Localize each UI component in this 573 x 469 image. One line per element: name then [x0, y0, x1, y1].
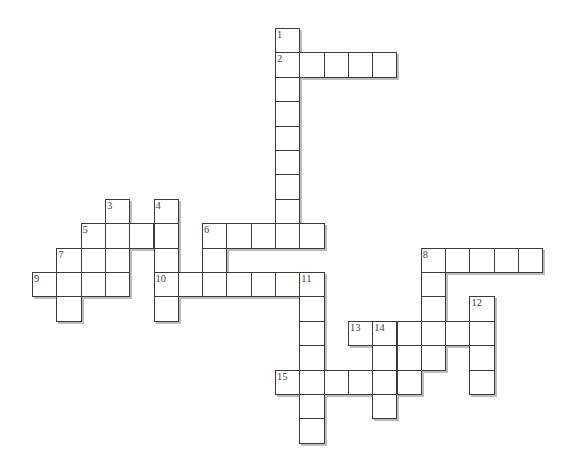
clue-number: 10	[156, 273, 167, 284]
crossword-cell[interactable]: 7	[56, 248, 81, 273]
crossword-cell[interactable]	[421, 345, 446, 370]
crossword-cell[interactable]	[299, 321, 324, 346]
clue-number: 4	[156, 200, 161, 211]
crossword-cell[interactable]	[275, 223, 300, 248]
clue-number: 13	[350, 322, 361, 333]
crossword-cell[interactable]	[372, 394, 397, 419]
crossword-cell[interactable]	[518, 248, 543, 273]
crossword-cell[interactable]	[56, 272, 81, 297]
clue-number: 2	[277, 53, 282, 64]
crossword-cell[interactable]	[275, 174, 300, 199]
crossword-cell[interactable]	[275, 150, 300, 175]
clue-number: 14	[374, 322, 385, 333]
crossword-cell[interactable]	[372, 370, 397, 395]
crossword-cell[interactable]: 10	[154, 272, 179, 297]
crossword-cell[interactable]	[421, 321, 446, 346]
crossword-cell[interactable]	[348, 370, 373, 395]
crossword-cell[interactable]	[251, 223, 276, 248]
crossword-cell[interactable]: 12	[469, 296, 494, 321]
crossword-cell[interactable]	[202, 272, 227, 297]
crossword-cell[interactable]	[129, 223, 154, 248]
crossword-cell[interactable]: 13	[348, 321, 373, 346]
crossword-cell[interactable]	[275, 272, 300, 297]
crossword-cell[interactable]	[299, 418, 324, 443]
crossword-cell[interactable]	[469, 248, 494, 273]
clue-number: 12	[471, 297, 482, 308]
crossword-cell[interactable]: 5	[81, 223, 106, 248]
crossword-cell[interactable]	[299, 52, 324, 77]
crossword-cell[interactable]	[178, 272, 203, 297]
crossword-cell[interactable]: 15	[275, 370, 300, 395]
clue-number: 11	[301, 273, 311, 284]
crossword-cell[interactable]: 4	[154, 199, 179, 224]
crossword-cell[interactable]	[275, 199, 300, 224]
crossword-cell[interactable]	[154, 248, 179, 273]
crossword-cell[interactable]	[275, 77, 300, 102]
crossword-cell[interactable]	[299, 223, 324, 248]
crossword-cell[interactable]	[154, 223, 179, 248]
crossword-cell[interactable]	[275, 126, 300, 151]
clue-number: 3	[107, 200, 112, 211]
crossword-cell[interactable]	[202, 248, 227, 273]
crossword-grid: 123456789101112131415	[0, 0, 573, 469]
crossword-cell[interactable]	[324, 370, 349, 395]
crossword-cell[interactable]	[226, 223, 251, 248]
crossword-cell[interactable]	[372, 345, 397, 370]
crossword-cell[interactable]	[445, 248, 470, 273]
crossword-cell[interactable]	[105, 248, 130, 273]
clue-number: 9	[34, 273, 39, 284]
crossword-cell[interactable]	[105, 272, 130, 297]
crossword-cell[interactable]	[494, 248, 519, 273]
crossword-cell[interactable]: 14	[372, 321, 397, 346]
crossword-cell[interactable]	[421, 272, 446, 297]
clue-number: 8	[423, 249, 428, 260]
crossword-cell[interactable]	[372, 52, 397, 77]
clue-number: 5	[83, 224, 88, 235]
crossword-cell[interactable]	[299, 370, 324, 395]
crossword-cell[interactable]	[251, 272, 276, 297]
crossword-cell[interactable]	[81, 248, 106, 273]
crossword-cell[interactable]: 6	[202, 223, 227, 248]
crossword-cell[interactable]	[469, 321, 494, 346]
crossword-cell[interactable]: 2	[275, 52, 300, 77]
crossword-cell[interactable]: 1	[275, 28, 300, 53]
crossword-cell[interactable]	[105, 223, 130, 248]
crossword-cell[interactable]	[299, 345, 324, 370]
crossword-cell[interactable]: 9	[32, 272, 57, 297]
clue-number: 15	[277, 371, 288, 382]
crossword-cell[interactable]	[226, 272, 251, 297]
crossword-cell[interactable]	[397, 345, 422, 370]
crossword-cell[interactable]	[154, 296, 179, 321]
crossword-cell[interactable]: 8	[421, 248, 446, 273]
crossword-cell[interactable]	[469, 345, 494, 370]
crossword-cell[interactable]	[324, 52, 349, 77]
crossword-cell[interactable]	[56, 296, 81, 321]
crossword-cell[interactable]	[348, 52, 373, 77]
crossword-cell[interactable]: 3	[105, 199, 130, 224]
crossword-cell[interactable]	[299, 394, 324, 419]
crossword-cell[interactable]	[275, 101, 300, 126]
clue-number: 1	[277, 29, 282, 40]
crossword-cell[interactable]: 11	[299, 272, 324, 297]
crossword-cell[interactable]	[397, 321, 422, 346]
clue-number: 7	[58, 249, 63, 260]
clue-number: 6	[204, 224, 209, 235]
crossword-cell[interactable]	[445, 321, 470, 346]
crossword-cell[interactable]	[421, 296, 446, 321]
crossword-cell[interactable]	[299, 296, 324, 321]
crossword-cell[interactable]	[469, 370, 494, 395]
crossword-cell[interactable]	[81, 272, 106, 297]
crossword-cell[interactable]	[397, 370, 422, 395]
